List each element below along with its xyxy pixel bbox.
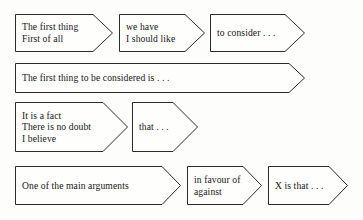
arrow-box-row4-box1[interactable]: One of the main arguments [15,166,181,205]
chevron-shape-icon [15,14,113,52]
chevron-shape-icon [15,166,181,205]
chevron-shape-icon [210,14,305,52]
arrow-box-row3-box1[interactable]: It is a fact There is no doubt I believe [15,102,128,152]
chevron-shape-icon [132,102,198,152]
arrow-box-row4-box2[interactable]: in favour of against [187,166,262,205]
chevron-shape-icon [268,166,348,205]
arrow-box-row2-box1[interactable]: The first thing to be considered is . . … [15,63,305,93]
diagram-canvas: The first thing First of all we have I s… [0,0,363,220]
arrow-box-row3-box2[interactable]: that . . . [132,102,198,152]
arrow-box-row1-box3[interactable]: to consider . . . [210,14,305,52]
arrow-box-row1-box1[interactable]: The first thing First of all [15,14,113,52]
arrow-box-row1-box2[interactable]: we have I should like [119,14,205,52]
chevron-shape-icon [187,166,262,205]
chevron-shape-icon [15,102,128,152]
chevron-shape-icon [119,14,205,52]
chevron-shape-icon [15,63,305,93]
arrow-box-row4-box3[interactable]: X is that . . . [268,166,348,205]
